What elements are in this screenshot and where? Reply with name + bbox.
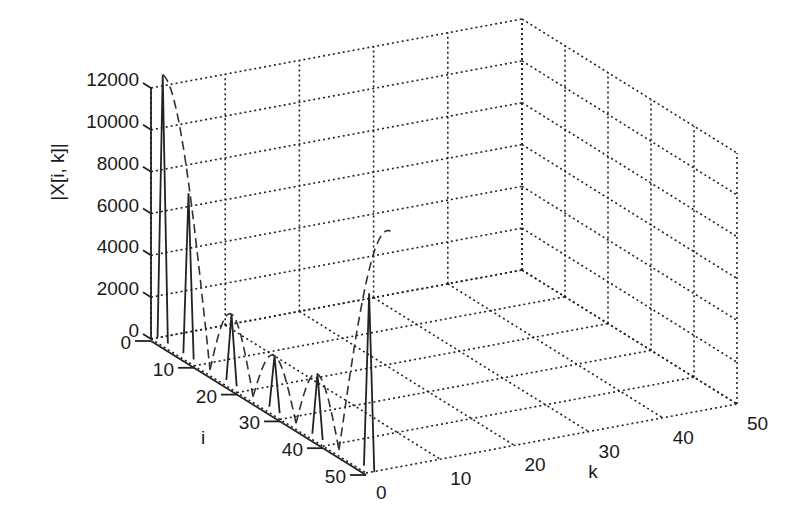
z-tick-label: 8000 (97, 153, 139, 174)
data-series (158, 75, 391, 472)
tick-labels: 0200040006000800010000120000102030405001… (86, 69, 768, 503)
i-tick-label: 0 (120, 332, 131, 353)
spike-line (364, 293, 374, 472)
z-tick (143, 334, 151, 339)
k-tick-label: 10 (450, 468, 471, 489)
back-wall-grid-z (151, 145, 522, 214)
side-wall-grid-z (522, 145, 737, 279)
z-tick (143, 83, 151, 88)
k-axis-label: k (588, 461, 598, 482)
k-tick-label: 30 (599, 441, 620, 462)
k-tick-label: 40 (673, 427, 694, 448)
back-wall-grid-z (151, 270, 522, 339)
floor-grid-i (280, 350, 651, 419)
floor-grid-k (225, 325, 440, 459)
grid-lines (151, 19, 737, 473)
z-tick (143, 167, 151, 172)
k-tick-label: 0 (376, 482, 387, 503)
z-tick-label: 12000 (86, 69, 139, 90)
back-wall-grid-z (151, 103, 522, 172)
side-wall-grid-z (522, 270, 737, 404)
z-tick-label: 10000 (86, 111, 139, 132)
spike-line (226, 314, 236, 386)
floor-grid-k (299, 311, 514, 445)
side-wall-grid-z (522, 103, 737, 237)
back-wall-grid-z (151, 228, 522, 297)
floor-grid-k (374, 298, 589, 432)
z-tick-label: 6000 (97, 195, 139, 216)
side-wall-grid-z (522, 228, 737, 362)
i-tick-label: 50 (325, 466, 346, 487)
back-wall-grid-z (151, 61, 522, 130)
z-axis-label: |X[i, k]| (47, 143, 68, 200)
side-wall-grid-z (522, 186, 737, 320)
floor-grid-k (448, 284, 663, 418)
floor-grid-i (323, 377, 694, 446)
z-tick (143, 125, 151, 130)
floor-grid-k (151, 339, 366, 473)
i-tick-label: 30 (239, 412, 260, 433)
floor-grid-i (237, 324, 608, 393)
envelope-curve (163, 75, 210, 370)
z-tick (143, 209, 151, 214)
k-tick-label: 50 (747, 413, 768, 434)
i-tick-label: 10 (153, 359, 174, 380)
i-tick-label: 20 (196, 386, 217, 407)
i-axis-line (151, 341, 366, 475)
z-tick (143, 292, 151, 297)
spike-line (158, 75, 168, 344)
spike-line (183, 193, 193, 359)
side-wall-grid-z (522, 61, 737, 195)
spike-line (312, 374, 322, 440)
side-wall-grid-z (522, 19, 737, 153)
back-wall-grid-z (151, 186, 522, 255)
i-tick-label: 40 (282, 439, 303, 460)
k-tick-label: 20 (524, 454, 545, 475)
i-axis-label: i (201, 427, 205, 448)
z-tick (143, 250, 151, 255)
back-wall-grid-z (151, 19, 522, 88)
z-tick-label: 4000 (97, 236, 139, 257)
z-tick-label: 2000 (97, 278, 139, 299)
3d-plot: 0200040006000800010000120000102030405001… (0, 0, 808, 506)
floor-grid-i (194, 297, 565, 366)
